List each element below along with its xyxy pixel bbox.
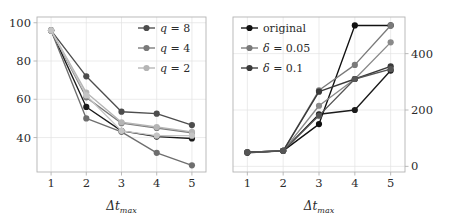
data-point-marker	[189, 122, 195, 128]
x-tick-label: 1	[47, 176, 54, 190]
data-point-marker	[316, 103, 322, 109]
data-point-marker	[316, 113, 322, 119]
chart-legend: q = 8q = 4q = 2	[138, 22, 190, 75]
data-point-marker	[352, 107, 358, 113]
x-axis-label: Δtmax	[105, 199, 137, 215]
data-point-marker	[316, 121, 322, 127]
y-tick-label: 40	[16, 131, 31, 145]
x-tick-label: 3	[118, 176, 125, 190]
legend-label: δ = 0.05	[263, 42, 310, 55]
x-tick-label: 5	[387, 176, 394, 190]
data-point-marker	[83, 92, 89, 98]
y-tick-label: 80	[16, 54, 31, 68]
x-tick-label: 4	[351, 176, 358, 190]
figure-container: 12345406080100Δtmaxq = 8q = 4q = 2 12345…	[0, 0, 449, 218]
data-point-marker	[189, 133, 195, 139]
data-point-marker	[280, 148, 286, 154]
y-tick-label: 60	[16, 92, 31, 106]
data-point-marker	[244, 149, 250, 155]
data-point-marker	[83, 73, 89, 79]
y-tick-label: 100	[9, 16, 31, 30]
data-point-marker	[352, 22, 358, 28]
data-point-marker	[352, 76, 358, 82]
legend-label: q = 4	[160, 42, 190, 55]
data-point-marker	[118, 119, 124, 125]
y-tick-label: 400	[411, 47, 433, 61]
data-point-marker	[316, 89, 322, 95]
data-point-marker	[154, 124, 160, 130]
data-point-marker	[118, 109, 124, 115]
data-point-marker	[352, 62, 358, 68]
chart-panel-left: 12345406080100Δtmaxq = 8q = 4q = 2	[0, 0, 225, 218]
x-tick-label: 2	[83, 176, 90, 190]
left-chart-plot: 12345406080100Δtmaxq = 8q = 4q = 2	[0, 0, 225, 218]
x-tick-label: 5	[188, 176, 195, 190]
y-tick-label: 200	[411, 103, 433, 117]
data-point-marker	[118, 128, 124, 134]
data-point-marker	[388, 22, 394, 28]
data-point-marker	[83, 104, 89, 110]
data-point-marker	[154, 133, 160, 139]
data-point-marker	[154, 111, 160, 117]
right-chart-plot: 123450200400Δtmaxoriginalδ = 0.05δ = 0.1	[225, 0, 449, 218]
x-tick-label: 3	[315, 176, 322, 190]
legend-label: original	[263, 22, 307, 35]
legend-label: q = 2	[160, 62, 190, 75]
legend-label: q = 8	[160, 22, 190, 35]
data-point-marker	[154, 150, 160, 156]
data-point-marker	[388, 39, 394, 45]
legend-label: δ = 0.1	[263, 62, 303, 75]
x-tick-label: 1	[244, 176, 251, 190]
y-tick-label: 0	[411, 159, 418, 173]
data-point-marker	[83, 115, 89, 121]
data-point-marker	[48, 27, 54, 33]
chart-panel-right: 123450200400Δtmaxoriginalδ = 0.05δ = 0.1	[225, 0, 449, 218]
x-tick-label: 4	[153, 176, 160, 190]
data-point-marker	[189, 162, 195, 168]
data-point-marker	[388, 66, 394, 72]
chart-legend: originalδ = 0.05δ = 0.1	[241, 22, 310, 75]
x-tick-label: 2	[280, 176, 287, 190]
x-axis-label: Δtmax	[303, 199, 335, 215]
